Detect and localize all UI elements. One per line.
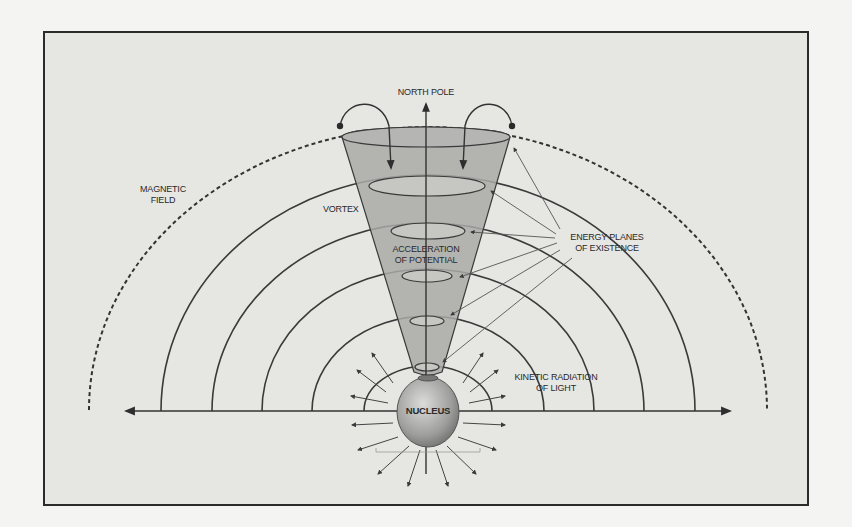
acceleration-label-line2: OF POTENTIAL bbox=[395, 255, 458, 265]
vortex-ring-3 bbox=[391, 223, 465, 239]
flow-dot-right bbox=[509, 123, 515, 129]
vortex-ring-2 bbox=[369, 176, 485, 196]
vortex-ring-4 bbox=[402, 270, 452, 282]
vortex-ring-5 bbox=[410, 316, 444, 326]
nucleus-neck bbox=[418, 375, 438, 381]
kinetic-radiation-label-line2: OF LIGHT bbox=[536, 383, 577, 393]
nucleus-label: NUCLEUS bbox=[406, 405, 451, 416]
flow-dot-left bbox=[337, 123, 343, 129]
kinetic-radiation-label-line1: KINETIC RADIATION bbox=[515, 372, 598, 382]
north-pole-label: NORTH POLE bbox=[398, 87, 455, 97]
magnetic-field-label-line1: MAGNETIC bbox=[140, 184, 187, 194]
energy-planes-label-line2: OF EXISTENCE bbox=[575, 243, 639, 253]
vortex-label: VORTEX bbox=[323, 204, 359, 214]
energy-vortex-diagram: NORTH POLE MAGNETIC FIELD VORTEX ACCELER… bbox=[0, 0, 852, 527]
magnetic-field-label-line2: FIELD bbox=[151, 195, 176, 205]
vortex-ring-6 bbox=[415, 363, 439, 371]
acceleration-label-line1: ACCELERATION bbox=[393, 244, 460, 254]
energy-planes-label-line1: ENERGY PLANES bbox=[570, 232, 643, 242]
